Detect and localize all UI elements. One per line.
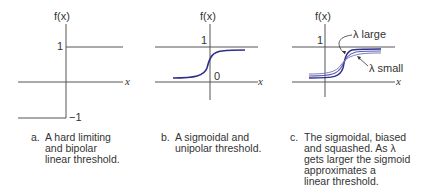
caption-b-letter: b.: [161, 132, 170, 143]
caption-a: a. A hard limiting and bipolar linear th…: [31, 132, 141, 165]
panel-b-sigmoid: f(x) 1 0 x: [155, 10, 263, 100]
caption-a-letter: a.: [31, 132, 40, 143]
panel-b-ylabel: f(x): [200, 10, 216, 22]
panel-c-tick-upper: 1: [317, 34, 323, 46]
panel-c-annotation-large: λ large: [353, 28, 386, 40]
panel-c-annotation-small: λ small: [369, 62, 403, 74]
panel-a-ylabel: f(x): [54, 10, 70, 22]
panel-c-biased-sigmoids: f(x) 1 λ large λ small x: [292, 10, 403, 97]
panel-b-sigmoid-curve: [173, 50, 245, 78]
caption-b: b. A sigmoidal and unipolar threshold.: [161, 132, 276, 154]
caption-a-text: A hard limiting and bipolar linear thres…: [45, 132, 141, 165]
panel-c-arrowhead-large-icon: [342, 51, 346, 54]
panel-a-tick-upper: 1: [57, 40, 63, 52]
caption-b-text: A sigmoidal and unipolar threshold.: [175, 132, 276, 154]
panel-c-ylabel: f(x): [315, 10, 331, 22]
panel-a-hard-limit: f(x) 1 −1 x: [18, 10, 130, 123]
caption-c-letter: c.: [290, 132, 298, 143]
panel-a-xlabel: x: [124, 75, 130, 87]
panel-b-tick-origin: 0: [214, 70, 220, 82]
panel-a-tick-lower: −1: [69, 111, 82, 123]
caption-c: c. The sigmoidal, biased and squashed. A…: [290, 132, 420, 187]
panel-b-tick-upper: 1: [201, 34, 207, 46]
panel-b-xlabel: x: [257, 75, 263, 87]
panel-c-xlabel: x: [395, 75, 401, 87]
caption-c-text: The sigmoidal, biased and squashed. As λ…: [304, 132, 420, 187]
